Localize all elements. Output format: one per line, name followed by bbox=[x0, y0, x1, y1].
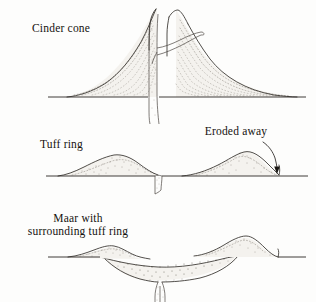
cinder-cone-label: Cinder cone bbox=[32, 22, 90, 34]
tuff-ring-label: Tuff ring bbox=[40, 138, 83, 151]
volcanic-landform-figure: Cinder cone bbox=[0, 0, 316, 302]
eroded-away-label: Eroded away bbox=[205, 125, 268, 138]
figure-canvas: Cinder cone bbox=[0, 0, 316, 302]
maar-label-line1: Maar with bbox=[53, 212, 102, 224]
maar-label-line2: surrounding tuff ring bbox=[28, 225, 129, 238]
